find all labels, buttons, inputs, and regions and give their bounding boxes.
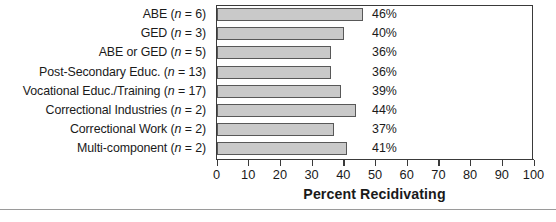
category-label: Multi-component (n = 2) xyxy=(0,139,206,158)
bar-row: Correctional Industries (n = 2)44% xyxy=(0,101,556,120)
category-label: Post-Secondary Educ. (n = 13) xyxy=(0,63,206,82)
category-label: Vocational Educ./Training (n = 17) xyxy=(0,82,206,101)
x-axis-tick xyxy=(312,160,313,166)
bar xyxy=(217,123,334,136)
x-axis-tick-label: 100 xyxy=(514,167,554,183)
bar-value-label: 41% xyxy=(372,139,397,158)
x-axis-tick xyxy=(217,160,218,166)
category-label: ABE or GED (n = 5) xyxy=(0,43,206,62)
bar-value-label: 37% xyxy=(372,120,397,139)
bar-value-label: 46% xyxy=(372,5,397,24)
category-label: Correctional Work (n = 2) xyxy=(0,120,206,139)
bar xyxy=(217,46,331,59)
recidivism-bar-chart: ABE (n = 6)46%GED (n = 3)40%ABE or GED (… xyxy=(0,0,556,222)
bar-rows: ABE (n = 6)46%GED (n = 3)40%ABE or GED (… xyxy=(0,5,556,160)
x-axis-tick xyxy=(438,160,439,166)
x-axis-tick xyxy=(502,160,503,166)
x-axis-tick xyxy=(534,160,535,166)
category-label: ABE (n = 6) xyxy=(0,5,206,24)
bar-row: Correctional Work (n = 2)37% xyxy=(0,120,556,139)
x-axis-tick xyxy=(248,160,249,166)
bar-row: ABE or GED (n = 5)36% xyxy=(0,43,556,62)
category-label: Correctional Industries (n = 2) xyxy=(0,101,206,120)
x-axis-tick xyxy=(280,160,281,166)
x-axis-tick xyxy=(375,160,376,166)
bar-value-label: 36% xyxy=(372,63,397,82)
bar xyxy=(217,104,356,117)
bar-row: GED (n = 3)40% xyxy=(0,24,556,43)
bar xyxy=(217,8,363,21)
x-axis-tick xyxy=(407,160,408,166)
bar xyxy=(217,27,344,40)
bar xyxy=(217,85,341,98)
bar-value-label: 40% xyxy=(372,24,397,43)
bar-row: ABE (n = 6)46% xyxy=(0,5,556,24)
bar xyxy=(217,66,331,79)
bar-row: Multi-component (n = 2)41% xyxy=(0,139,556,158)
bar-value-label: 36% xyxy=(372,43,397,62)
bar-row: Vocational Educ./Training (n = 17)39% xyxy=(0,82,556,101)
bar-row: Post-Secondary Educ. (n = 13)36% xyxy=(0,63,556,82)
bar-value-label: 39% xyxy=(372,82,397,101)
category-label: GED (n = 3) xyxy=(0,24,206,43)
bar xyxy=(217,142,347,155)
x-axis-title: Percent Recidivating xyxy=(216,186,533,202)
x-axis-tick xyxy=(343,160,344,166)
bottom-divider-rule xyxy=(0,209,556,210)
bar-value-label: 44% xyxy=(372,101,397,120)
x-axis-tick xyxy=(470,160,471,166)
